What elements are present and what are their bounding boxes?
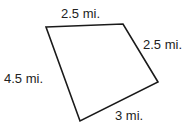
quadrilateral-shape bbox=[46, 24, 158, 121]
side-label-left: 4.5 mi. bbox=[4, 71, 43, 86]
side-label-top: 2.5 mi. bbox=[61, 6, 100, 21]
quadrilateral-diagram: 2.5 mi. 2.5 mi. 3 mi. 4.5 mi. bbox=[0, 0, 191, 128]
side-label-bottom: 3 mi. bbox=[115, 108, 143, 123]
side-label-right: 2.5 mi. bbox=[143, 37, 182, 52]
